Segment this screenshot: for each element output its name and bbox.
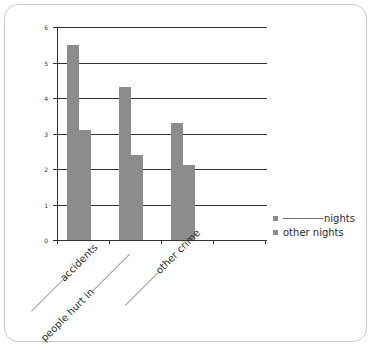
gridline-4 (57, 98, 267, 99)
legend-swatch-icon-1 (273, 230, 278, 235)
x-axis (57, 240, 267, 241)
x-category-label-1: people hurt in (39, 250, 132, 343)
blank-rule-2 (125, 272, 158, 305)
plot-area: 6 5 4 3 2 1 0 (57, 27, 267, 240)
x-tick-3 (213, 240, 214, 244)
x-category-label-0: accidents (27, 242, 99, 314)
x-tick-2 (161, 240, 162, 244)
x-tick-4 (265, 240, 266, 244)
y-tick-label-4: 4 (44, 96, 48, 102)
y-tick-label-3: 3 (44, 132, 48, 138)
y-tick-3: 3 (53, 134, 57, 135)
gridline-6 (57, 27, 267, 28)
y-tick-2: 2 (53, 169, 57, 170)
legend-label-1: other nights (283, 227, 344, 238)
blank-rule-1 (93, 254, 130, 291)
legend-item-1[interactable]: other nights (273, 225, 355, 239)
x-category-text-0: accidents (58, 242, 100, 284)
legend-item-0[interactable]: nights (273, 211, 355, 225)
bar-group0-series0 (67, 45, 79, 240)
bar-group0-series1 (79, 130, 91, 240)
x-tick-1 (109, 240, 110, 244)
y-tick-label-1: 1 (44, 203, 48, 209)
y-tick-label-0: 0 (44, 238, 48, 244)
y-tick-4: 4 (53, 98, 57, 99)
y-tick-label-5: 5 (44, 61, 48, 67)
legend-blank-rule (283, 218, 323, 219)
bar-group2-series0 (171, 123, 183, 240)
y-tick-1: 1 (53, 205, 57, 206)
legend-label-0: nights (324, 213, 355, 224)
legend-swatch-icon-0 (273, 216, 278, 221)
y-tick-label-2: 2 (44, 167, 48, 173)
chart-card: 6 5 4 3 2 1 0 (4, 4, 367, 342)
x-tick-0 (57, 240, 58, 244)
blank-rule-0 (31, 280, 63, 312)
y-tick-label-6: 6 (44, 25, 48, 31)
bar-group1-series0 (119, 87, 131, 240)
legend: nights other nights (273, 211, 355, 239)
gridline-5 (57, 63, 267, 64)
y-tick-5: 5 (53, 63, 57, 64)
y-tick-6: 6 (53, 27, 57, 28)
bar-group1-series1 (131, 155, 143, 240)
